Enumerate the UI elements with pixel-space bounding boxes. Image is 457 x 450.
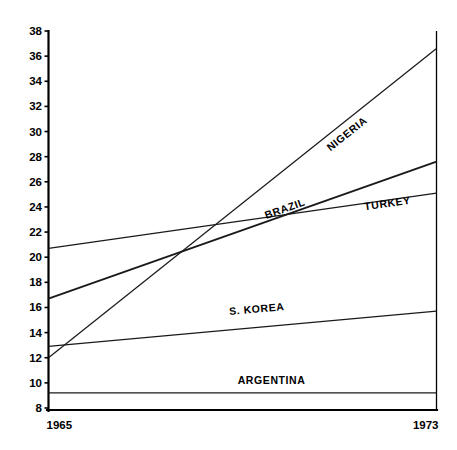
series-label-argentina: ARGENTINA <box>238 374 306 386</box>
y-tick-label: 28 <box>29 151 42 163</box>
line-chart: 3836343230282624222018161412108 19651973… <box>0 0 457 450</box>
y-tick-label: 36 <box>29 50 42 62</box>
y-tick-label: 12 <box>29 352 42 364</box>
x-axis-tick-labels: 19651973 <box>47 419 439 431</box>
series-lines <box>49 49 437 393</box>
x-tick-label: 1973 <box>413 419 439 431</box>
y-tick-label: 22 <box>29 226 42 238</box>
series-line-s-korea <box>49 311 437 346</box>
y-axis-tick-labels: 3836343230282624222018161412108 <box>29 25 48 414</box>
y-tick-label: 8 <box>36 402 43 414</box>
y-tick-label: 26 <box>29 176 42 188</box>
x-tick-label: 1965 <box>47 419 73 431</box>
y-tick-label: 30 <box>29 126 42 138</box>
chart-canvas: 3836343230282624222018161412108 19651973… <box>0 0 457 450</box>
series-annotations: NIGERIABRAZILTURKEYS. KOREAARGENTINA <box>228 114 411 386</box>
y-tick-label: 24 <box>29 201 42 213</box>
series-line-brazil <box>49 162 437 299</box>
y-tick-label: 14 <box>29 327 42 339</box>
y-tick-label: 32 <box>29 100 42 112</box>
y-tick-label: 18 <box>29 276 42 288</box>
y-tick-label: 34 <box>29 75 42 87</box>
series-label-s-korea: S. KOREA <box>228 300 284 317</box>
y-tick-label: 38 <box>29 25 42 37</box>
y-tick-label: 16 <box>29 301 42 313</box>
series-label-brazil: BRAZIL <box>263 196 307 221</box>
series-label-turkey: TURKEY <box>363 194 411 212</box>
y-tick-label: 10 <box>29 377 42 389</box>
y-tick-label: 20 <box>29 251 42 263</box>
